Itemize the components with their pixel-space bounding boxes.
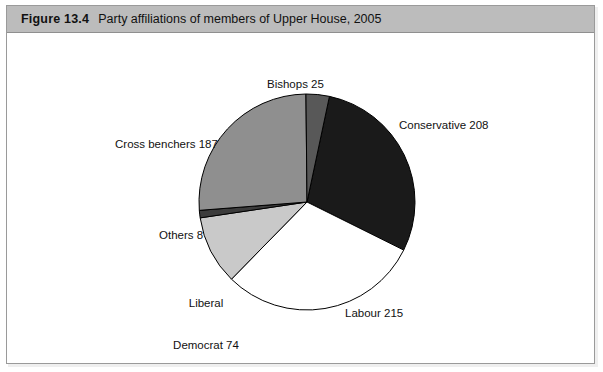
figure-caption-text: Party affiliations of members of Upper H… — [98, 12, 381, 26]
pie-label-liberal-democrat-line1: Liberal — [158, 296, 254, 310]
pie-chart-plot-area: Bishops 25 Conservative 208 Cross benche… — [7, 34, 594, 363]
pie-slice-cross-benchers — [199, 94, 307, 210]
figure-frame: Figure 13.4 Party affiliations of member… — [6, 5, 595, 364]
pie-label-liberal-democrat: Liberal Democrat 74 — [158, 268, 254, 363]
pie-label-liberal-democrat-line2: Democrat 74 — [158, 338, 254, 352]
pie-label-cross-benchers: Cross benchers 187 — [115, 137, 218, 151]
figure-caption-bar: Figure 13.4 Party affiliations of member… — [7, 6, 594, 33]
pie-label-others: Others 8 — [159, 228, 203, 242]
pie-label-labour: Labour 215 — [345, 306, 403, 320]
figure-number: Figure 13.4 — [21, 12, 89, 26]
pie-label-bishops: Bishops 25 — [267, 77, 324, 91]
pie-label-conservative: Conservative 208 — [399, 118, 489, 132]
figure-screenshot: Figure 13.4 Party affiliations of member… — [0, 0, 603, 372]
